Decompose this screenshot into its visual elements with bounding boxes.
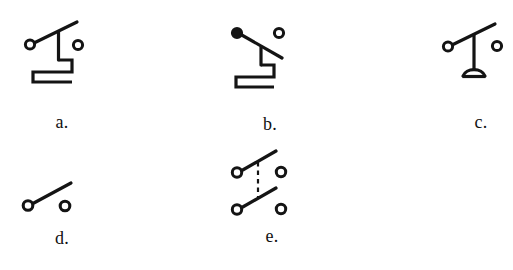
terminal-upper-left-e	[232, 168, 241, 177]
terminal-left-d	[23, 201, 33, 211]
terminal-left-c	[443, 42, 452, 51]
terminal-right-d	[60, 201, 70, 211]
switch-symbol-e	[228, 146, 308, 222]
figure-item-e: e.	[224, 146, 334, 268]
terminal-left-b	[232, 28, 241, 37]
figure-label-d: d.	[14, 228, 110, 248]
terminal-lower-left-e	[232, 205, 241, 214]
terminal-right-b	[274, 28, 283, 37]
figure-label-e: e.	[224, 226, 320, 246]
switch-symbol-a	[20, 16, 104, 98]
figure-label-c: c.	[436, 112, 513, 132]
terminal-right-c	[492, 41, 501, 50]
terminal-lower-right-e	[276, 204, 285, 213]
switch-symbol-d	[18, 172, 98, 224]
figure-item-d: d.	[14, 172, 124, 266]
figure-item-a: a.	[14, 16, 124, 136]
terminal-left-a	[25, 40, 34, 49]
figure-sheet: a. b.	[0, 0, 513, 270]
figure-item-b: b.	[222, 22, 332, 140]
terminal-right-a	[73, 40, 82, 49]
switch-symbol-b	[226, 22, 312, 102]
terminal-upper-right-e	[276, 167, 285, 176]
figure-item-c: c.	[436, 18, 513, 138]
figure-label-a: a.	[14, 112, 110, 132]
figure-label-b: b.	[222, 114, 318, 134]
switch-symbol-c	[438, 18, 513, 96]
